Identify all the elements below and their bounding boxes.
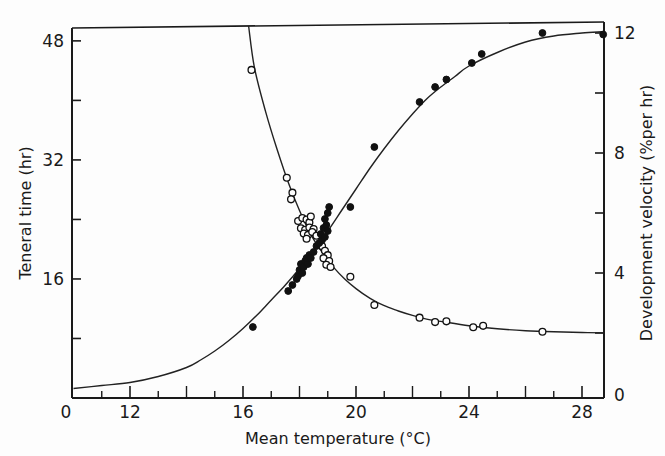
plot-frame: 121620242816324804812 (42, 22, 635, 422)
teneral-time-point (416, 314, 423, 321)
velocity-point (371, 144, 378, 151)
velocity-point (285, 288, 292, 295)
y-right-tick-label: 12 (614, 23, 636, 43)
x-axis-title: Mean temperature (°C) (245, 429, 431, 448)
y-right-axis-title: Development velocity (%per hr) (637, 85, 656, 341)
teneral-time-point (539, 328, 546, 335)
teneral-time-point (289, 189, 296, 196)
teneral-time-point (470, 324, 477, 331)
y-left-tick-label: 48 (42, 31, 64, 51)
velocity-fit-curve (74, 32, 605, 389)
teneral-time-point (480, 322, 487, 329)
x-tick-label: 20 (345, 402, 367, 422)
y-left-tick-label: 32 (42, 150, 64, 170)
teneral-time-point (443, 318, 450, 325)
teneral-time-point (248, 66, 255, 73)
x-tick-label: 12 (119, 402, 141, 422)
velocity-point (539, 30, 546, 37)
teneral-time-point (303, 235, 310, 242)
velocity-point (347, 204, 354, 211)
teneral-time-point (288, 196, 295, 203)
velocity-point (289, 282, 296, 289)
velocity-point (432, 84, 439, 91)
velocity-point (416, 99, 423, 106)
x-tick-label: 28 (571, 402, 593, 422)
x-tick-label: 24 (458, 402, 480, 422)
fit-curves (74, 26, 605, 389)
teneral-time-point (371, 302, 378, 309)
data-points (248, 30, 607, 336)
chart: 121620242816324804812 0 Mean temperature… (0, 0, 665, 456)
x-axis-break-label: 0 (61, 402, 72, 422)
velocity-point (324, 228, 331, 235)
velocity-point (478, 51, 485, 58)
teneral-time-point (307, 213, 314, 220)
teneral-time-point (432, 319, 439, 326)
teneral-time-fit-curve (249, 26, 605, 333)
y-left-axis-title: Teneral time (hr) (16, 146, 35, 280)
axis-labels: 0 Mean temperature (°C) Teneral time (hr… (16, 85, 656, 448)
x-tick-label: 16 (232, 402, 254, 422)
top-border-line (72, 22, 604, 28)
y-left-tick-label: 16 (42, 269, 64, 289)
teneral-time-point (327, 264, 334, 271)
velocity-point (443, 76, 450, 83)
y-right-tick-label: 0 (614, 385, 625, 405)
teneral-time-point (283, 174, 290, 181)
velocity-point (468, 60, 475, 67)
velocity-point (600, 31, 607, 38)
velocity-point (326, 204, 333, 211)
y-right-tick-label: 4 (614, 263, 625, 283)
teneral-time-point (347, 273, 354, 280)
velocity-point (249, 324, 256, 331)
y-right-tick-label: 8 (614, 143, 625, 163)
